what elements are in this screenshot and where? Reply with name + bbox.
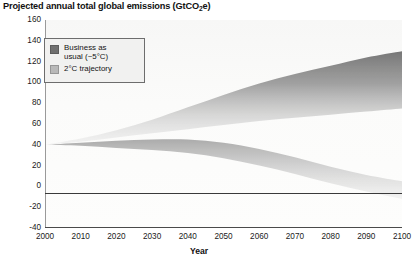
legend-label-two-degree: 2°C trajectory xyxy=(64,64,112,73)
y-tick-label: 40 xyxy=(3,140,41,149)
x-axis-line xyxy=(45,227,402,228)
y-tick-label: 60 xyxy=(3,119,41,128)
x-tick-label: 2000 xyxy=(25,232,65,241)
y-tick-label: 0 xyxy=(3,181,41,190)
x-tick-label: 2090 xyxy=(346,232,386,241)
chart-legend: Business as usual (~5°C) 2°C trajectory xyxy=(44,38,145,83)
zero-reference-line xyxy=(45,193,402,194)
legend-swatch-icon-two-degree xyxy=(50,65,59,74)
x-tick-label: 2080 xyxy=(311,232,351,241)
x-tick-label: 2070 xyxy=(275,232,315,241)
legend-item-two-degree: 2°C trajectory xyxy=(50,64,140,75)
x-axis-ticks: 2000201020202030204020502060207020802090… xyxy=(0,232,414,246)
legend-label-bau: Business as usual (~5°C) xyxy=(64,43,108,62)
x-tick-label: 2060 xyxy=(239,232,279,241)
y-tick-label: 160 xyxy=(3,15,41,24)
x-tick-label: 2040 xyxy=(168,232,208,241)
y-tick-label: -20 xyxy=(3,202,41,211)
x-tick-label: 2030 xyxy=(132,232,172,241)
title-suffix: e) xyxy=(202,1,210,11)
y-tick-label: 20 xyxy=(3,161,41,170)
y-tick-label: 100 xyxy=(3,77,41,86)
legend-item-business-as-usual: Business as usual (~5°C) xyxy=(50,43,140,62)
x-tick-label: 2020 xyxy=(96,232,136,241)
x-tick-label: 2010 xyxy=(61,232,101,241)
x-axis-label: Year xyxy=(0,246,414,256)
x-tick-label: 2100 xyxy=(382,232,414,241)
y-tick-label: 140 xyxy=(3,36,41,45)
x-tick-label: 2050 xyxy=(204,232,244,241)
y-tick-label: 80 xyxy=(3,98,41,107)
band-two-degree xyxy=(45,139,402,199)
y-tick-label: 120 xyxy=(3,57,41,66)
y-tick-label: -40 xyxy=(3,223,41,232)
title-subscript: 2 xyxy=(199,5,203,12)
emissions-fan-chart: Projected annual total global emissions … xyxy=(0,0,414,278)
legend-swatch-icon-bau xyxy=(50,45,59,54)
